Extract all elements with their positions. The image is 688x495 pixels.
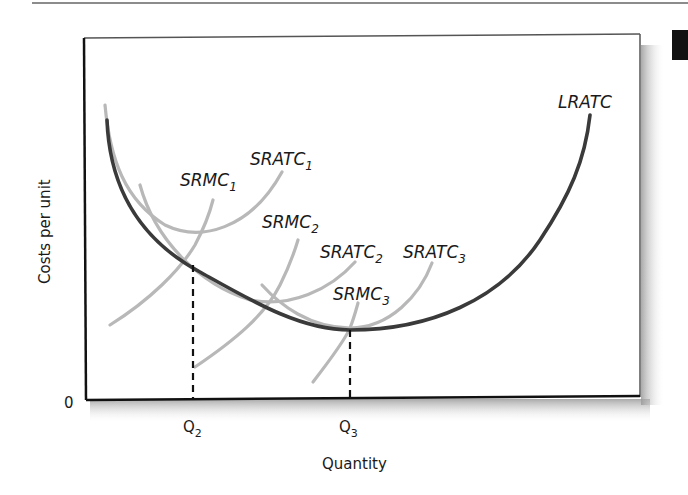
srmc3-label: SRMC3 xyxy=(333,284,390,308)
frame-shadow-right xyxy=(641,45,665,405)
srmc1-curve xyxy=(110,200,213,325)
y-axis xyxy=(84,38,86,400)
frame-shadow-bottom xyxy=(90,399,650,423)
sratc1-label: SRATC1 xyxy=(250,149,313,173)
cost-curves-chart: LRATC SRATC1 SRMC1 SRMC2 SRATC2 SRATC3 S… xyxy=(0,0,688,495)
x-axis-title: Quantity xyxy=(322,455,387,473)
srmc1-label: SRMC1 xyxy=(180,170,237,194)
srmc3-curve xyxy=(313,303,358,382)
frame-top-edge xyxy=(84,34,640,38)
lratc-label: LRATC xyxy=(558,92,612,112)
y-axis-title: Costs per unit xyxy=(36,179,54,284)
sratc3-label: SRATC3 xyxy=(403,242,466,266)
sratc2-label: SRATC2 xyxy=(320,242,383,266)
srmc2-label: SRMC2 xyxy=(262,212,319,236)
origin-label: 0 xyxy=(64,394,74,412)
